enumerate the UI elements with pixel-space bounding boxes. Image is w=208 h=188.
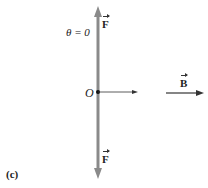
field-arrowhead-icon bbox=[196, 90, 204, 96]
force-top-text: F bbox=[102, 18, 109, 30]
moment-arrowhead-icon bbox=[132, 90, 138, 94]
force-top-label: F bbox=[102, 19, 109, 30]
vector-arrow-icon bbox=[103, 151, 109, 152]
origin-label: O bbox=[85, 87, 94, 99]
panel-label: (c) bbox=[6, 169, 18, 180]
vector-arrow-icon bbox=[103, 16, 109, 17]
force-bottom-label: F bbox=[102, 154, 109, 165]
angle-label: θ = 0 bbox=[66, 27, 90, 38]
vector-arrow-icon bbox=[181, 75, 187, 76]
field-text: B bbox=[180, 77, 187, 89]
field-label: B bbox=[180, 78, 187, 89]
force-arrow-down-icon bbox=[94, 168, 102, 179]
force-bottom-text: F bbox=[102, 153, 109, 165]
force-arrow-up-icon bbox=[94, 6, 102, 17]
